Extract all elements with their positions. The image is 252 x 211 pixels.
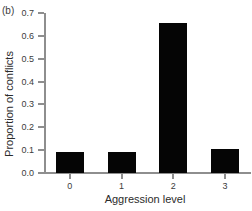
- x-tick: 3: [210, 174, 240, 194]
- x-tick-label: 0: [55, 180, 85, 192]
- bar: [108, 152, 136, 173]
- bar: [159, 23, 187, 173]
- x-tick: 0: [55, 174, 85, 194]
- x-tick-mark: [121, 174, 123, 179]
- y-tick: 0.7: [0, 7, 44, 19]
- y-tick: 0.3: [0, 98, 44, 110]
- y-tick-label: 0.3: [21, 98, 34, 110]
- y-tick: 0.0: [0, 167, 44, 179]
- y-tick-label: 0.6: [21, 30, 34, 42]
- y-tick-label: 0.4: [21, 76, 34, 88]
- x-tick: 2: [158, 174, 188, 194]
- y-tick: 0.6: [0, 30, 44, 42]
- x-tick-label: 2: [158, 180, 188, 192]
- y-tick-label: 0.7: [21, 7, 34, 19]
- bars-layer: [44, 13, 251, 173]
- x-tick-mark: [172, 174, 174, 179]
- y-tick: 0.2: [0, 121, 44, 133]
- x-tick-mark: [69, 174, 71, 179]
- x-tick-label: 3: [210, 180, 240, 192]
- x-tick: 1: [107, 174, 137, 194]
- x-tick-mark: [224, 174, 226, 179]
- y-tick: 0.5: [0, 53, 44, 65]
- bar: [211, 149, 239, 173]
- x-axis-title: Aggression level: [38, 192, 252, 206]
- y-tick-label: 0.1: [21, 144, 34, 156]
- y-tick: 0.1: [0, 144, 44, 156]
- y-tick-label: 0.0: [21, 167, 34, 179]
- figure-panel-b: (b) Proportion of conflicts 0.00.10.20.3…: [0, 0, 252, 211]
- y-tick-label: 0.2: [21, 121, 34, 133]
- x-tick-label: 1: [107, 180, 137, 192]
- y-tick-label: 0.5: [21, 53, 34, 65]
- bar: [56, 152, 84, 173]
- y-tick: 0.4: [0, 76, 44, 88]
